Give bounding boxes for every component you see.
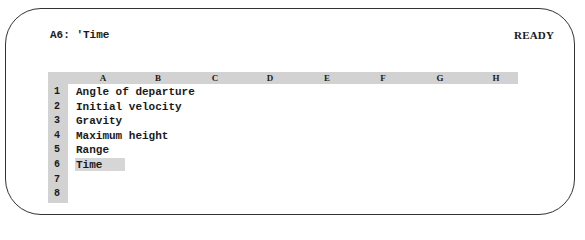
row-number-5[interactable]: 5 <box>54 144 60 156</box>
cell-a2[interactable]: Initial velocity <box>76 101 182 113</box>
row-number-8[interactable]: 8 <box>54 188 60 200</box>
cell-contents: 'Time <box>76 29 109 41</box>
cell-status: A6: 'Time <box>50 29 109 41</box>
cell-a4[interactable]: Maximum height <box>76 130 168 142</box>
row-number-6[interactable]: 6 <box>54 159 60 171</box>
mode-indicator: READY <box>514 29 554 41</box>
column-header-c[interactable]: C <box>212 72 219 84</box>
cell-a3[interactable]: Gravity <box>76 115 122 127</box>
column-header-g[interactable]: G <box>436 72 443 84</box>
cell-a5[interactable]: Range <box>76 144 109 156</box>
row-number-3[interactable]: 3 <box>54 115 60 127</box>
column-header-h[interactable]: H <box>492 72 499 84</box>
cell-reference: A6: <box>50 29 70 41</box>
column-header-d[interactable]: D <box>267 72 274 84</box>
row-number-4[interactable]: 4 <box>54 130 60 142</box>
column-header-e[interactable]: E <box>324 72 330 84</box>
cell-a1[interactable]: Angle of departure <box>76 86 195 98</box>
column-header-bar: ABCDEFGH <box>48 72 518 84</box>
row-number-1[interactable]: 1 <box>54 86 60 98</box>
row-number-2[interactable]: 2 <box>54 101 60 113</box>
row-number-7[interactable]: 7 <box>54 174 60 186</box>
column-header-b[interactable]: B <box>155 72 161 84</box>
column-header-a[interactable]: A <box>100 72 107 84</box>
cell-a6[interactable]: Time <box>76 159 102 171</box>
column-header-f[interactable]: F <box>380 72 386 84</box>
